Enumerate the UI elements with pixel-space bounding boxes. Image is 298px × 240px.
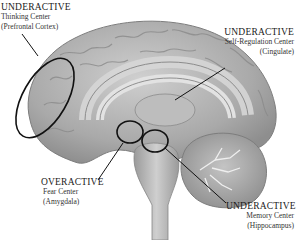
- area-text: (Cingulate): [224, 47, 294, 57]
- area-text: (Prefrontal Cortex): [1, 22, 71, 32]
- thalamus: [135, 94, 195, 126]
- region-text: Self-Regulation Center: [224, 37, 294, 47]
- label-cingulate: UNDERACTIVE Self-Regulation Center (Cing…: [224, 27, 294, 57]
- status-text: OVERACTIVE: [41, 177, 104, 187]
- label-prefrontal: UNDERACTIVE Thinking Center (Prefrontal …: [1, 2, 71, 32]
- status-text: UNDERACTIVE: [1, 2, 71, 12]
- region-text: Thinking Center: [1, 12, 71, 22]
- region-text: Memory Center: [226, 211, 294, 221]
- status-text: UNDERACTIVE: [224, 27, 294, 37]
- region-text: Fear Center: [41, 187, 104, 197]
- status-text: UNDERACTIVE: [226, 201, 294, 211]
- brain-diagram: UNDERACTIVE Thinking Center (Prefrontal …: [0, 0, 298, 240]
- area-text: (Amygdala): [41, 197, 104, 207]
- label-amygdala: OVERACTIVE Fear Center (Amygdala): [41, 177, 104, 207]
- prefrontal-leader: [22, 34, 38, 56]
- label-hippocampus: UNDERACTIVE Memory Center (Hippocampus): [226, 201, 294, 231]
- area-text: (Hippocampus): [226, 221, 294, 231]
- brainstem: [134, 143, 179, 240]
